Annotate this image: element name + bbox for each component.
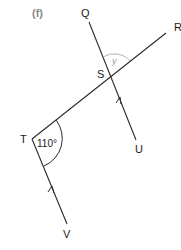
- point-label-s: S: [97, 68, 104, 80]
- geometry-diagram: (f) Q R S T U V 110° y: [0, 0, 181, 250]
- point-label-r: R: [174, 21, 181, 33]
- angle-label-y: y: [111, 56, 117, 66]
- point-label-q: Q: [81, 7, 90, 19]
- point-label-u: U: [135, 143, 143, 155]
- line-tv: [32, 139, 67, 224]
- parallel-arrow-icon: [48, 186, 54, 193]
- part-label: (f): [32, 7, 43, 19]
- point-label-t: T: [20, 133, 27, 145]
- angle-arc-y: [103, 54, 130, 61]
- angle-label-110: 110°: [37, 138, 57, 149]
- parallel-arrow-icon: [116, 97, 121, 104]
- point-label-v: V: [63, 228, 71, 240]
- line-qu: [89, 22, 136, 140]
- line-tr: [32, 33, 166, 139]
